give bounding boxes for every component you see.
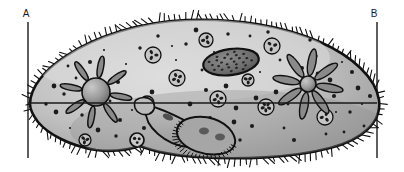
cytoplasm-granule: [69, 127, 71, 129]
cytoplasm-granule: [114, 134, 117, 137]
pore-granule: [133, 137, 136, 140]
buccal-granule-1: [199, 128, 209, 135]
cytoplasm-granule: [88, 60, 92, 64]
cytoplasm-granule: [368, 94, 372, 98]
cytoplasm-granule: [341, 61, 343, 63]
food-vacuole: [199, 33, 213, 47]
cytoplasm-granule: [232, 120, 237, 125]
cytoplasm-granule: [125, 63, 127, 65]
cytoplasm-granule: [142, 126, 146, 130]
vacuole-sphere: [82, 78, 110, 106]
cytoplasm-granule: [259, 71, 261, 73]
cytoplasm-granule: [80, 113, 83, 116]
cytoplasm-granule: [131, 109, 133, 111]
cytoplasm-granule: [138, 46, 141, 49]
section-label-a: A: [23, 8, 30, 19]
cytoplasm-granule: [194, 28, 199, 33]
cytoplasm-granule: [224, 84, 229, 89]
cilium: [227, 158, 229, 167]
cytoplasm-granule: [350, 70, 354, 74]
buccal-cilium: [172, 134, 178, 135]
cytoplasm-granule: [363, 125, 366, 128]
cilium: [191, 10, 193, 19]
cytoplasm-granule: [335, 111, 337, 113]
food-vacuole: [242, 74, 254, 86]
cytoplasm-granule: [308, 38, 311, 41]
section-label-b: B: [371, 8, 378, 19]
food-vacuole-membrane: [145, 47, 161, 63]
buccal-granule-2: [215, 134, 225, 141]
cytoplasm-granule: [175, 59, 177, 61]
cilium: [22, 95, 30, 99]
food-vacuole-membrane: [210, 91, 226, 107]
paramecium-diagram: A B: [0, 0, 404, 172]
cytoplasm-granule: [109, 100, 112, 103]
pore-granule: [138, 137, 141, 140]
cytoplasm-granule: [52, 84, 57, 89]
cytoplasm-granule: [103, 49, 105, 51]
food-vacuole: [79, 134, 91, 146]
trichocyst-pore-layer: [130, 133, 144, 159]
food-vacuole-membrane: [258, 99, 274, 115]
food-particle: [154, 54, 158, 57]
vacuole-sphere: [300, 76, 316, 92]
cytoplasm-granule: [234, 106, 239, 111]
cilium: [88, 149, 91, 157]
food-vacuole-membrane: [199, 33, 213, 47]
cytoplasm-granule: [283, 127, 286, 130]
cytoplasm-granule: [254, 96, 259, 101]
oral-groove-neck: [134, 98, 154, 115]
pore-granule: [136, 141, 139, 144]
cytoplasm-granule: [62, 92, 65, 95]
cytoplasm-granule: [238, 138, 241, 141]
cytoplasm-granule: [67, 65, 70, 68]
food-vacuole: [169, 70, 185, 86]
cytoplasm-granule: [171, 45, 173, 47]
food-vacuole: [264, 38, 280, 54]
food-vacuole: [145, 47, 161, 63]
cytoplasm-granule: [343, 131, 346, 134]
cytoplasm-granule: [54, 110, 59, 115]
cytoplasm-granule: [328, 78, 333, 83]
cilium: [197, 11, 199, 20]
cytoplasm-granule: [279, 59, 282, 62]
cytoplasm-granule: [266, 30, 269, 33]
cytoplasm-granule: [250, 124, 254, 128]
food-vacuole-membrane: [79, 134, 91, 146]
trichocyst-pore: [130, 133, 144, 159]
cilium: [85, 35, 87, 44]
cytoplasm-granule: [150, 90, 155, 95]
cytoplasm-granule: [226, 32, 229, 35]
food-vacuole: [210, 91, 226, 107]
cilium: [328, 39, 333, 46]
cytoplasm-granule: [274, 90, 279, 95]
cytoplasm-granule: [356, 86, 361, 91]
diagram-canvas: A B: [0, 0, 404, 172]
food-vacuole-membrane: [264, 38, 280, 54]
cytoplasm-granule: [348, 110, 351, 113]
cytoplasm-granule: [118, 118, 122, 122]
pore-body: [130, 133, 144, 147]
cytoplasm-granule: [75, 77, 78, 80]
cytoplasm-granule: [249, 35, 252, 38]
food-vacuole: [258, 99, 274, 115]
cytoplasm-granule: [325, 133, 328, 136]
cytoplasm-granule: [96, 128, 101, 133]
cytoplasm-granule: [332, 94, 336, 98]
food-vacuole-membrane: [169, 70, 185, 86]
cytoplasm-granule: [184, 42, 187, 45]
cytoplasm-granule: [204, 88, 208, 92]
cytoplasm-granule: [201, 69, 204, 72]
cytoplasm-granule: [292, 138, 296, 142]
cytoplasm-granule: [156, 34, 159, 37]
